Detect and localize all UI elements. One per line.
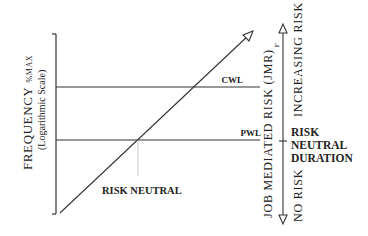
svg-text:NEUTRAL: NEUTRAL bbox=[291, 139, 348, 151]
no-risk-label: NO RISK bbox=[291, 169, 305, 222]
pwl-label: PWL bbox=[240, 128, 261, 138]
frequency-axis bbox=[52, 34, 56, 214]
jmr-axis-title: JOB MEDIATED RISK (JMR)F bbox=[261, 43, 281, 218]
jmr-axis bbox=[279, 24, 287, 224]
increasing-risk-label: INCREASING RISK bbox=[291, 2, 305, 117]
risk-neutral-label: RISK NEUTRAL bbox=[102, 185, 182, 196]
y-axis-subtitle: (Logarithmic Scale) bbox=[36, 70, 48, 150]
cwl-label: CWL bbox=[221, 75, 243, 85]
svg-text:RISK: RISK bbox=[291, 126, 319, 138]
y-axis-title: FREQUENCY%MAX bbox=[20, 55, 35, 170]
risk-neutral-duration-label: RISK NEUTRAL DURATION bbox=[291, 126, 353, 164]
svg-text:DURATION: DURATION bbox=[291, 152, 353, 164]
risk-diagram: FREQUENCY%MAX (Logarithmic Scale) CWL PW… bbox=[0, 0, 368, 236]
